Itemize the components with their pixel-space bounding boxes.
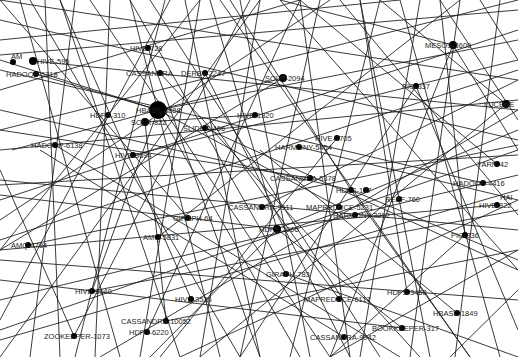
- node-label: BOOKKEEPER-317: [372, 324, 439, 333]
- graph-edge: [205, 73, 350, 357]
- network-graph: AMHIVE-595HADOOP-5318HIVE-728CASSANDRADE…: [0, 0, 518, 357]
- graph-edge: [0, 175, 518, 300]
- node-label: HIVE-3640: [75, 287, 112, 296]
- node-label: HIVE-1705: [315, 134, 352, 143]
- graph-edge: [380, 0, 506, 104]
- node-label: HIVE-3694: [115, 151, 152, 160]
- node-label: HAI: [500, 193, 513, 202]
- node-label: HARMONY-5454: [275, 143, 332, 152]
- node-label: DERBY-2247: [181, 69, 225, 78]
- node-label: HIVE-1820: [237, 111, 274, 120]
- node-label: SOLR-822: [131, 118, 166, 127]
- graph-edge: [0, 0, 260, 357]
- node-label: CASSANDRA-9942: [310, 333, 376, 342]
- graph-edge: [240, 86, 416, 357]
- graph-node-hive-595[interactable]: [29, 57, 37, 65]
- graph-edge: [286, 274, 518, 357]
- node-label: HIVE-822: [479, 201, 512, 210]
- node-label: HDFS-187: [336, 186, 371, 195]
- graph-edge: [230, 0, 351, 190]
- node-label: GIRAPH-64: [173, 214, 213, 223]
- graph-edge: [0, 20, 518, 140]
- node-label: HIVE-3526: [175, 295, 212, 304]
- node-label: SOLR-2094: [265, 74, 305, 83]
- node-label: CASSANDRA: [126, 69, 173, 78]
- node-label: CASSANDRA-5378: [270, 174, 336, 183]
- node-label: HBASE-1849: [433, 309, 478, 318]
- graph-edge: [0, 150, 518, 330]
- node-label: GIRAPH-783: [266, 270, 310, 279]
- node-label: ZOOKEEPER-1073: [44, 332, 110, 341]
- graph-edge: [453, 45, 518, 150]
- node-label: SLIDER-466: [183, 124, 225, 133]
- node-label: YARN-42: [477, 160, 508, 169]
- node-label: AM: [11, 52, 22, 61]
- node-label: HIVE-595: [37, 57, 70, 66]
- node-label: HIVE-728: [130, 44, 163, 53]
- graph-edge: [360, 0, 407, 292]
- edge-layer: [0, 0, 518, 357]
- node-label: HARMONY-3292: [333, 211, 390, 220]
- node-label: HBASE-8888: [136, 106, 181, 115]
- node-label: HDFS-2006: [259, 225, 299, 234]
- node-label: MESOS-3609: [425, 41, 471, 50]
- node-label: PIG-337: [402, 82, 430, 91]
- graph-edge: [30, 0, 75, 357]
- node-label: HDFS-6220: [129, 328, 169, 337]
- node-label: CASSANDRA-10052: [121, 317, 191, 326]
- node-label: AMQ-5831: [143, 233, 179, 242]
- node-label: CASSANDRA-9911: [228, 203, 293, 212]
- node-label: PIG-336: [451, 231, 479, 240]
- network-graph-canvas: AMHIVE-595HADOOP-5318HIVE-728CASSANDRADE…: [0, 0, 518, 357]
- node-label: AMQ-4784: [11, 241, 47, 250]
- node-label: HADOOP-6138: [31, 141, 83, 150]
- node-label: HADOOP-5318: [6, 70, 58, 79]
- node-label: HDFS-310: [90, 111, 125, 120]
- node-label: MAPREDUCE-6117: [304, 295, 371, 304]
- node-label: HDFS-3458: [387, 288, 427, 297]
- node-label: HADOOP-4416: [453, 179, 505, 188]
- graph-edge: [0, 0, 400, 40]
- node-label: LUCENE: [484, 100, 514, 109]
- node-label: REEF-760: [385, 195, 420, 204]
- graph-edge: [36, 74, 158, 110]
